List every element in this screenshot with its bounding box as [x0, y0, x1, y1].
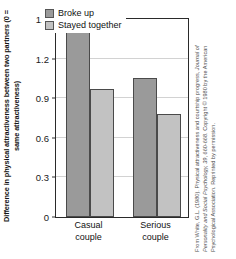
bars-container	[56, 19, 188, 217]
y-tick-label: 0.3	[36, 172, 49, 183]
source-credit: From White, G.L. (1980). Physical attrac…	[191, 6, 229, 256]
bar-chart-figure: Difference in physical attractiveness be…	[0, 0, 236, 259]
bar	[90, 89, 114, 217]
y-axis-title: Difference in physical attractiveness be…	[0, 8, 25, 224]
x-tick-label-line1: Serious	[140, 220, 171, 232]
x-tick-label: Seriouscouple	[140, 220, 171, 243]
legend: Broke upStayed together	[42, 5, 126, 33]
credit-line-1: From White, G.L. (1980). Physical attrac…	[194, 6, 201, 252]
page-artifact	[18, 248, 21, 255]
plot-area	[55, 18, 189, 218]
legend-item: Broke up	[45, 8, 122, 18]
bar	[66, 22, 90, 217]
y-axis-title-container: Difference in physical attractiveness be…	[0, 8, 25, 224]
x-tick-label-line2: couple	[140, 232, 171, 244]
credit-line-2: Personality and Social Psychology, 39, 6…	[202, 6, 209, 252]
x-axis-ticks: CasualcoupleSeriouscouple	[55, 220, 189, 252]
x-tick-label-line1: Casual	[74, 220, 102, 232]
y-axis-ticks: 00.30.60.91.21.5	[24, 10, 52, 224]
legend-label: Stayed together	[58, 20, 122, 30]
x-tick-label-line2: couple	[74, 232, 102, 244]
legend-swatch-icon	[45, 9, 54, 18]
bar	[133, 78, 157, 217]
y-tick-label: 0	[44, 212, 49, 223]
y-tick-label: 0.6	[36, 132, 49, 143]
legend-label: Broke up	[58, 8, 94, 18]
credit-line-3: Psychological Association. Reprinted by …	[210, 6, 217, 252]
x-tick-label: Casualcouple	[74, 220, 102, 243]
legend-item: Stayed together	[45, 20, 122, 30]
y-tick-label: 0.9	[36, 93, 49, 104]
y-tick-label: 1.2	[36, 53, 49, 64]
legend-swatch-icon	[45, 21, 54, 30]
bar	[157, 114, 181, 217]
